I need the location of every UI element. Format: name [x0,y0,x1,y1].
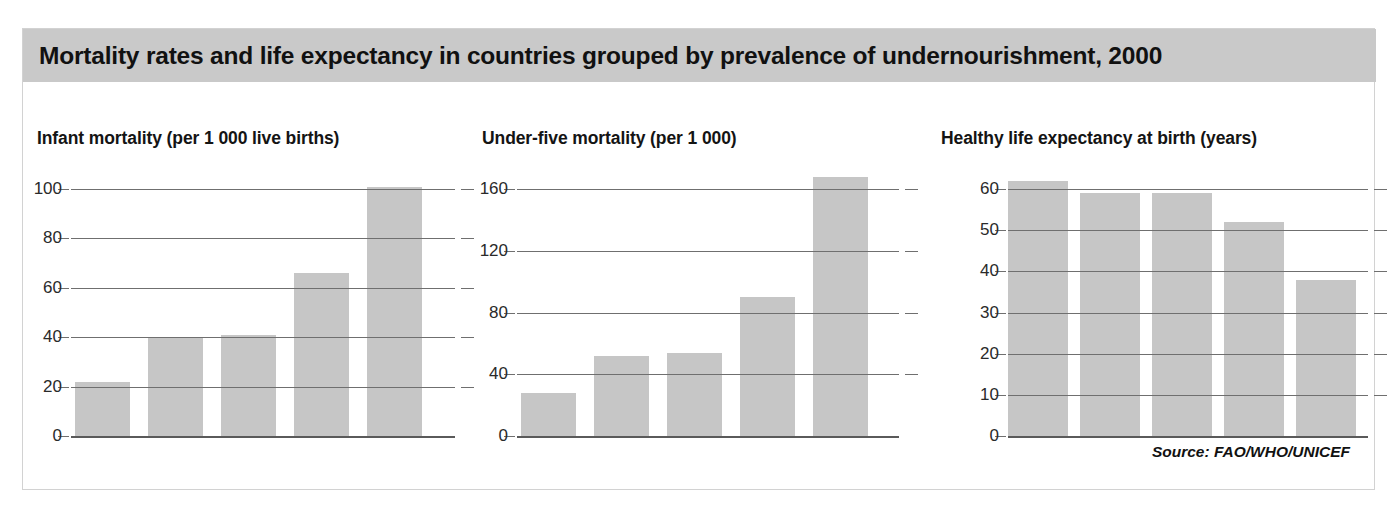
figure-title: Mortality rates and life expectancy in c… [39,42,1162,70]
plot-area: 0102030405060<2.52.5–45–1920–34≥35% of p… [1008,189,1368,436]
gridline [71,387,455,388]
y-tick-right [1374,395,1387,396]
gridline [1008,189,1368,190]
x-axis-line [1008,436,1368,438]
bar [813,177,868,436]
y-tick-label: 0 [499,426,508,446]
y-tick-label: 20 [43,377,62,397]
bar-series [71,189,455,436]
bar [1008,181,1068,436]
chart-panel-under-five-mortality: Under-five mortality (per 1 000) 0408012… [472,82,917,491]
gridline [1008,230,1368,231]
x-axis-line [71,436,455,438]
y-tick-label: 0 [990,426,999,446]
plot-area: 020406080100<2.52.5–45–1920–34≥35% of po… [71,189,455,436]
source-note: Source: FAO/WHO/UNICEF [1152,443,1350,461]
bar [294,273,349,436]
chart-title: Under-five mortality (per 1 000) [482,128,737,149]
bar [740,297,795,436]
bar [75,382,130,436]
gridline [1008,395,1368,396]
bar [1224,222,1284,436]
bar [521,393,576,436]
y-tick-label: 160 [480,179,508,199]
gridline [71,238,455,239]
gridline [1008,271,1368,272]
gridline [1008,354,1368,355]
gridline [517,189,899,190]
y-tick-label: 100 [34,179,62,199]
gridline [71,189,455,190]
gridline [71,337,455,338]
y-tick-label: 50 [980,220,999,240]
bar [667,353,722,436]
y-tick-label: 40 [489,364,508,384]
figure-container: Mortality rates and life expectancy in c… [22,28,1375,490]
gridline [517,374,899,375]
gridline [1008,313,1368,314]
gridline [517,313,899,314]
y-tick-label: 60 [43,278,62,298]
x-axis-line [517,436,899,438]
y-tick-right [1374,354,1387,355]
y-tick-label: 20 [980,344,999,364]
chart-panel-healthy-life-expectancy: Healthy life expectancy at birth (years)… [917,82,1376,491]
y-tick-right [1374,189,1387,190]
gridline [71,288,455,289]
y-tick-right [1374,230,1387,231]
bar [367,187,422,436]
plot-area: 04080120160<2.52.5–45–1920–34≥35% of pop… [517,189,899,436]
bar [594,356,649,436]
y-tick-label: 40 [980,261,999,281]
y-tick-label: 40 [43,327,62,347]
bar [1296,280,1356,436]
gridline [517,251,899,252]
y-tick-label: 0 [53,426,62,446]
y-tick-label: 80 [489,303,508,323]
y-tick-label: 80 [43,228,62,248]
chart-title: Healthy life expectancy at birth (years) [941,128,1257,149]
chart-title: Infant mortality (per 1 000 live births) [37,128,339,149]
figure-header-band: Mortality rates and life expectancy in c… [23,29,1376,82]
y-tick-label: 30 [980,303,999,323]
y-tick-label: 60 [980,179,999,199]
y-tick-right [1374,271,1387,272]
chart-panel-infant-mortality: Infant mortality (per 1 000 live births)… [23,82,472,491]
y-tick-label: 120 [480,241,508,261]
bar [221,335,276,436]
y-tick-label: 10 [980,385,999,405]
y-tick-right [1374,313,1387,314]
